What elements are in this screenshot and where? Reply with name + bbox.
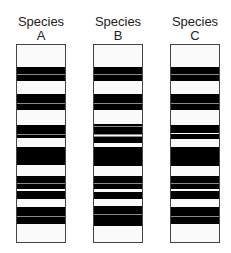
band-separator-line — [94, 74, 142, 75]
species-a-label: Species A — [6, 15, 76, 43]
band-separator-line — [94, 103, 142, 104]
band-separator-line — [171, 216, 219, 217]
band-separator-line — [17, 134, 65, 135]
band-separator-line — [94, 134, 142, 135]
dna-band — [171, 191, 219, 199]
band-separator-line — [94, 183, 142, 184]
gel-lane-species-b — [93, 44, 143, 243]
band-separator-line — [17, 183, 65, 184]
species-a-title: Species — [6, 15, 76, 29]
dna-band — [17, 191, 65, 199]
band-separator-line — [171, 183, 219, 184]
band-separator-line — [171, 74, 219, 75]
dna-band — [94, 136, 142, 143]
dna-band — [171, 147, 219, 166]
band-separator-line — [17, 216, 65, 217]
dna-band — [171, 134, 219, 139]
gel-lane-species-a — [16, 44, 66, 243]
species-c-label: Species C — [160, 15, 230, 43]
band-separator-line — [17, 103, 65, 104]
dna-band — [94, 147, 142, 166]
dna-band — [17, 147, 65, 165]
band-separator-line — [94, 136, 142, 137]
dna-band — [94, 192, 142, 199]
band-separator-line — [17, 74, 65, 75]
dna-band — [171, 94, 219, 110]
species-a-letter: A — [6, 29, 76, 43]
band-separator-line — [171, 103, 219, 104]
gel-lane-species-c — [170, 44, 220, 243]
species-c-letter: C — [160, 29, 230, 43]
species-b-label: Species B — [83, 15, 153, 43]
band-separator-line — [94, 126, 142, 127]
dna-band — [17, 94, 65, 110]
band-separator-line — [94, 214, 142, 215]
dna-band — [17, 125, 65, 138]
species-b-letter: B — [83, 29, 153, 43]
dna-band — [94, 206, 142, 226]
dna-band — [94, 94, 142, 110]
species-b-title: Species — [83, 15, 153, 29]
species-c-title: Species — [160, 15, 230, 29]
dna-band — [171, 125, 219, 133]
